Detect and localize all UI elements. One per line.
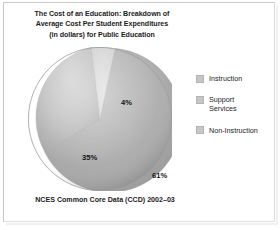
legend-swatch-icon-instruction	[196, 75, 204, 83]
legend-label-non-instruction: Non-Instruction	[209, 126, 258, 135]
legend-label-instruction: Instruction	[209, 74, 242, 83]
legend-label-support-services-line-1: Support	[209, 95, 237, 104]
pie-sphere-shading	[28, 47, 171, 190]
pie-label-non-instruction: 4%	[121, 98, 132, 107]
chart-title: The Cost of an Education: Breakdown of A…	[12, 9, 192, 40]
legend-label-non-instruction-line-1: Non-Instruction	[209, 126, 258, 135]
pie-chart-figure: The Cost of an Education: Breakdown of A…	[0, 0, 280, 230]
legend-item-support-services[interactable]: Support Services	[196, 95, 276, 113]
legend-label-support-services: Support Services	[209, 95, 237, 113]
legend-item-instruction[interactable]: Instruction	[196, 74, 276, 83]
legend-label-support-services-line-2: Services	[209, 104, 237, 113]
chart-title-line-1: The Cost of an Education: Breakdown of	[12, 9, 192, 19]
chart-title-line-3: (in dollars) for Public Education	[12, 30, 192, 40]
pie-label-instruction: 61%	[152, 171, 167, 180]
pie-label-support-services: 35%	[82, 153, 97, 162]
chart-title-line-2: Average Cost Per Student Expenditures	[12, 19, 192, 29]
legend-label-instruction-line-1: Instruction	[209, 74, 242, 83]
legend-swatch-icon-non-instruction	[196, 126, 204, 134]
pie-chart: 61% 35% 4%	[28, 47, 172, 191]
pie-chart-svg	[28, 47, 172, 191]
legend-swatch-icon-support-services	[196, 96, 204, 104]
chart-legend: Instruction Support Services Non-Instruc…	[196, 74, 276, 147]
legend-item-non-instruction[interactable]: Non-Instruction	[196, 126, 276, 135]
chart-source-caption: NCES Common Core Data (CCD) 2002–03	[12, 196, 198, 204]
